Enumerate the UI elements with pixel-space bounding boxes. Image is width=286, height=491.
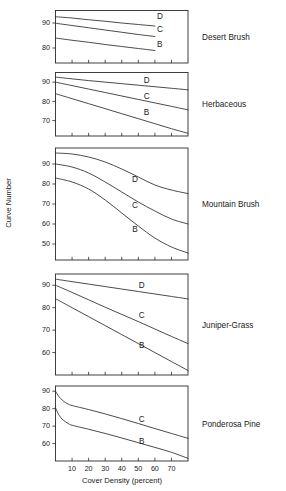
y-tick-label: 70 xyxy=(42,325,50,334)
curve-B xyxy=(56,94,189,134)
x-tick-label: 70 xyxy=(167,464,175,473)
series-label-D: D xyxy=(139,281,145,290)
y-tick-label: 80 xyxy=(42,179,50,188)
y-tick-label: 90 xyxy=(42,18,50,27)
y-tick-label: 80 xyxy=(42,404,50,413)
y-tick-label: 80 xyxy=(42,97,50,106)
curve-C xyxy=(56,391,189,438)
series-label-D: D xyxy=(132,175,138,184)
y-tick-label: 60 xyxy=(42,348,50,357)
series-label-D: D xyxy=(157,12,163,21)
x-tick-label: 60 xyxy=(151,464,159,473)
curve-number-cover-density-chart: 8090DCBDesert Brush708090DCBHerbaceous50… xyxy=(0,0,286,491)
curve-C xyxy=(56,23,155,36)
chart-figure: 8090DCBDesert Brush708090DCBHerbaceous50… xyxy=(0,0,286,491)
x-tick-label: 50 xyxy=(134,464,142,473)
y-tick-label: 80 xyxy=(42,303,50,312)
curve-D xyxy=(56,153,189,194)
panel-group: 8090DCBDesert Brush708090DCBHerbaceous50… xyxy=(42,11,261,473)
y-tick-label: 60 xyxy=(42,439,50,448)
panel-desert-brush: 8090DCBDesert Brush xyxy=(42,11,250,64)
series-label-D: D xyxy=(144,76,150,85)
series-label-C: C xyxy=(144,92,150,101)
curve-D xyxy=(56,77,189,90)
y-tick-label: 90 xyxy=(42,386,50,395)
series-label-C: C xyxy=(132,201,138,210)
curve-C xyxy=(56,82,189,110)
series-label-B: B xyxy=(132,225,138,234)
curve-C xyxy=(56,164,189,224)
x-tick-label: 30 xyxy=(101,464,109,473)
panel-ponderosa-pine: 60708090CBPonderosa Pine xyxy=(42,386,261,461)
panel-title: Juniper-Grass xyxy=(202,321,253,330)
x-tick-label: 10 xyxy=(68,464,76,473)
y-tick-label: 60 xyxy=(42,219,50,228)
y-tick-label: 70 xyxy=(42,421,50,430)
curve-B xyxy=(56,38,155,51)
curve-B xyxy=(56,408,189,459)
series-label-C: C xyxy=(157,25,163,34)
panel-herbaceous: 708090DCBHerbaceous xyxy=(42,73,246,137)
y-tick-label: 80 xyxy=(42,43,50,52)
plot-frame xyxy=(56,148,189,260)
series-label-B: B xyxy=(139,341,145,350)
series-label-B: B xyxy=(157,40,163,49)
series-label-B: B xyxy=(139,437,145,446)
y-axis-title: Curve Number xyxy=(4,178,13,228)
panel-mountain-brush: 5060708090DCBMountain Brush xyxy=(42,148,260,260)
panel-title: Ponderosa Pine xyxy=(202,420,261,429)
curve-D xyxy=(56,279,189,299)
y-tick-label: 70 xyxy=(42,116,50,125)
y-tick-label: 70 xyxy=(42,199,50,208)
y-tick-label: 90 xyxy=(42,280,50,289)
curve-D xyxy=(56,17,155,26)
panel-title: Herbaceous xyxy=(202,100,246,109)
plot-frame xyxy=(56,73,189,137)
x-tick-label: 40 xyxy=(118,464,126,473)
y-tick-label: 90 xyxy=(42,159,50,168)
panel-title: Desert Brush xyxy=(202,33,250,42)
panel-title: Mountain Brush xyxy=(202,200,260,209)
plot-frame xyxy=(56,386,189,461)
y-tick-label: 50 xyxy=(42,239,50,248)
series-label-C: C xyxy=(139,311,145,320)
series-label-C: C xyxy=(139,415,145,424)
y-tick-label: 90 xyxy=(42,77,50,86)
x-tick-label: 20 xyxy=(85,464,93,473)
panel-juniper-grass: 60708090DCBJuniper-Grass xyxy=(42,274,253,375)
x-axis-title: Cover Density (percent) xyxy=(82,476,163,485)
series-label-B: B xyxy=(144,108,150,117)
